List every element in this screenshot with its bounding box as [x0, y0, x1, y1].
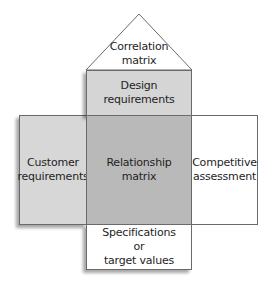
customer-requirements-label: Customer requirements [17, 156, 88, 184]
competitive-assessment-box: Competitive assessment [191, 115, 258, 225]
design-requirements-label: Design requirements [103, 79, 174, 107]
specifications-box: Specifications or target values [86, 224, 192, 270]
relationship-matrix-box: Relationship matrix [86, 115, 192, 225]
customer-requirements-box: Customer requirements [19, 115, 87, 225]
competitive-assessment-label: Competitive assessment [192, 156, 257, 184]
correlation-matrix-label: Correlation matrix [86, 40, 192, 68]
relationship-matrix-label: Relationship matrix [106, 156, 171, 184]
specifications-label: Specifications or target values [102, 226, 176, 268]
design-requirements-box: Design requirements [86, 70, 192, 116]
